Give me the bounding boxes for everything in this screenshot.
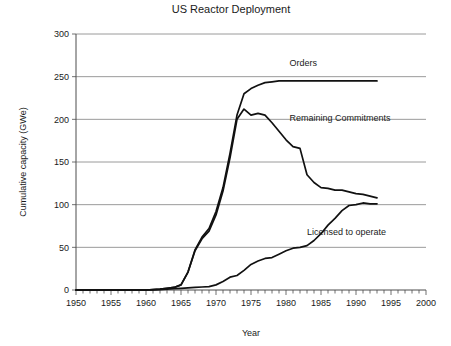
series-line-remaining-commitments [76, 109, 377, 290]
x-tick-label: 1960 [136, 298, 156, 308]
x-tick-label: 1965 [171, 298, 191, 308]
y-tick-label: 100 [54, 200, 69, 210]
gridlines [76, 34, 426, 247]
y-tick-label: 250 [54, 72, 69, 82]
x-tick-label: 1975 [241, 298, 261, 308]
x-tick-label: 1950 [66, 298, 86, 308]
y-tick-label: 0 [64, 285, 69, 295]
x-tick-label: 1995 [381, 298, 401, 308]
y-axis-ticks: 050100150200250300 [54, 29, 76, 295]
x-tick-label: 1955 [101, 298, 121, 308]
x-tick-label: 1980 [276, 298, 296, 308]
x-tick-label: 1970 [206, 298, 226, 308]
series-label-licensed-to-operate: Licensed to operate [307, 227, 386, 237]
us-reactor-deployment-chart: US Reactor Deployment Cumulative capacit… [0, 0, 451, 346]
y-axis-title: Cumulative capacity (GWe) [18, 107, 28, 216]
x-axis-title: Year [242, 328, 260, 338]
x-tick-label: 1990 [346, 298, 366, 308]
y-tick-label: 200 [54, 115, 69, 125]
y-tick-label: 150 [54, 157, 69, 167]
chart-title: US Reactor Deployment [172, 3, 291, 15]
x-tick-label: 2000 [416, 298, 436, 308]
chart-container: US Reactor Deployment Cumulative capacit… [0, 0, 451, 346]
series-line-licensed-to-operate [76, 203, 377, 290]
y-tick-label: 300 [54, 29, 69, 39]
series-annotations: OrdersRemaining CommitmentsLicensed to o… [290, 58, 392, 237]
x-tick-label: 1985 [311, 298, 331, 308]
y-tick-label: 50 [59, 243, 69, 253]
x-axis-ticks: 1950195519601965197019751980198519901995… [66, 290, 436, 308]
series-label-remaining-commitments: Remaining Commitments [290, 113, 392, 123]
series-label-orders: Orders [290, 58, 318, 68]
